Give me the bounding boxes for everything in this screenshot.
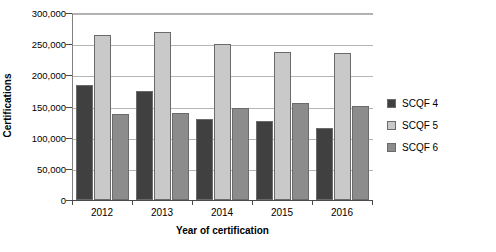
bar-scqf-4-2015 — [256, 121, 273, 200]
bar-scqf-6-2014 — [232, 108, 249, 200]
legend-item-scqf-4: SCQF 4 — [387, 92, 492, 114]
x-axis-tick-mark — [312, 200, 313, 205]
y-axis-tick-label: 50,000 — [8, 163, 66, 174]
y-axis-tick-label: 0 — [8, 195, 66, 206]
bar-scqf-6-2015 — [292, 103, 309, 200]
x-axis-tick-label-2012: 2012 — [72, 207, 132, 218]
x-axis-line — [72, 200, 373, 201]
bar-scqf-5-2015 — [274, 52, 291, 200]
legend: SCQF 4SCQF 5SCQF 6 — [387, 92, 492, 158]
bar-scqf-5-2016 — [334, 53, 351, 200]
x-axis-title: Year of certification — [72, 225, 373, 236]
legend-item-label: SCQF 5 — [402, 120, 438, 131]
bar-scqf-5-2012 — [94, 35, 111, 200]
x-axis-tick-label-2013: 2013 — [132, 207, 192, 218]
x-axis-tick-mark — [132, 200, 133, 205]
x-axis-tick-mark — [252, 200, 253, 205]
y-axis-tick-label: 200,000 — [8, 70, 66, 81]
legend-item-scqf-6: SCQF 6 — [387, 136, 492, 158]
legend-item-label: SCQF 4 — [402, 98, 438, 109]
x-axis-tick-mark — [192, 200, 193, 205]
legend-swatch-icon — [387, 143, 396, 152]
legend-swatch-icon — [387, 121, 396, 130]
bar-scqf-6-2012 — [112, 114, 129, 200]
x-axis-tick-label-2014: 2014 — [192, 207, 252, 218]
y-axis-tick-label: 300,000 — [8, 8, 66, 19]
legend-item-scqf-5: SCQF 5 — [387, 114, 492, 136]
bar-scqf-6-2016 — [352, 106, 369, 200]
bars-layer — [72, 13, 373, 200]
x-axis-tick-mark — [72, 200, 73, 205]
y-axis-tick-label: 100,000 — [8, 132, 66, 143]
y-axis-tick-label: 150,000 — [8, 101, 66, 112]
bar-scqf-4-2014 — [196, 119, 213, 200]
bar-scqf-4-2016 — [316, 128, 333, 200]
bar-chart: Certifications 050,000100,000150,000200,… — [0, 0, 496, 252]
x-axis-tick-label-2015: 2015 — [252, 207, 312, 218]
bar-scqf-6-2013 — [172, 113, 189, 200]
bar-scqf-4-2012 — [76, 85, 93, 200]
x-axis-tick-label-2016: 2016 — [312, 207, 372, 218]
bar-scqf-5-2014 — [214, 44, 231, 200]
y-axis-tick-label: 250,000 — [8, 39, 66, 50]
legend-swatch-icon — [387, 99, 396, 108]
x-axis-tick-mark — [372, 200, 373, 205]
bar-scqf-4-2013 — [136, 91, 153, 200]
legend-item-label: SCQF 6 — [402, 142, 438, 153]
bar-scqf-5-2013 — [154, 32, 171, 200]
